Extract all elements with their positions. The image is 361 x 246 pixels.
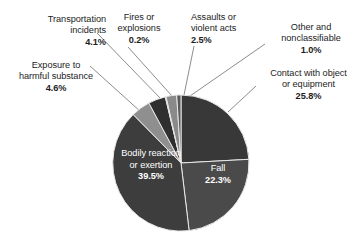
callout-fires-line1: Fires or: [106, 12, 172, 23]
callout-contact-line2: or equipment: [258, 79, 359, 90]
callout-transportation-line1: Transportation: [2, 14, 106, 25]
callout-exposure-harmful-substance: Exposure to harmful substance 4.6%: [2, 60, 110, 94]
callout-exposure-line1: Exposure to: [2, 60, 110, 71]
slice-label-bodily-line2: or exertion: [98, 160, 204, 172]
callout-other-line1: Other and: [267, 22, 355, 33]
callout-other-nonclassifiable: Other and nonclassifiable 1.0%: [267, 22, 355, 56]
callout-contact-with-object: Contact with object or equipment 25.8%: [258, 68, 359, 102]
callout-fires-percent: 0.2%: [106, 35, 172, 46]
callout-fires-or-explosions: Fires or explosions 0.2%: [106, 12, 172, 46]
callout-transportation-percent: 4.1%: [2, 37, 106, 48]
leader-line-assaults: [184, 46, 194, 95]
callout-exposure-line2: harmful substance: [2, 71, 110, 82]
callout-assaults-percent: 2.5%: [191, 35, 271, 46]
pie-chart: Transportation incidents 4.1% Exposure t…: [0, 0, 361, 246]
callout-contact-line1: Contact with object: [258, 68, 359, 79]
callout-transportation-line2: incidents: [2, 25, 106, 36]
slice-label-fall: Fall 22.3%: [192, 163, 244, 186]
slice-label-fall-line1: Fall: [192, 163, 244, 175]
callout-transportation-incidents: Transportation incidents 4.1%: [2, 14, 106, 48]
callout-assaults-line2: violent acts: [191, 23, 271, 34]
callout-assaults-line1: Assaults or: [191, 12, 271, 23]
callout-contact-percent: 25.8%: [258, 91, 359, 102]
slice-label-bodily-line1: Bodily reaction: [98, 148, 204, 160]
slice-label-bodily-reaction: Bodily reaction or exertion 39.5%: [98, 148, 204, 183]
callout-exposure-percent: 4.6%: [2, 83, 110, 94]
slice-label-bodily-percent: 39.5%: [98, 171, 204, 183]
callout-other-percent: 1.0%: [267, 45, 355, 56]
callout-other-line2: nonclassifiable: [267, 33, 355, 44]
leader-line-contact: [228, 86, 256, 112]
callout-fires-line2: explosions: [106, 23, 172, 34]
callout-assaults-violent-acts: Assaults or violent acts 2.5%: [191, 12, 271, 46]
slice-label-fall-percent: 22.3%: [192, 175, 244, 187]
